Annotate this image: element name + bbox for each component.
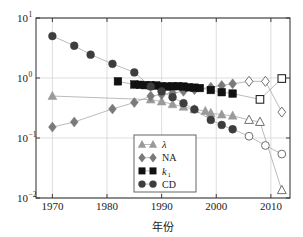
data-point-CD (48, 32, 56, 40)
chart-figure: 1970198019902000201010110010−110−2 λNAk1… (0, 0, 303, 237)
data-point-k₁ (114, 78, 122, 86)
y-tick-exponent: 1 (29, 10, 33, 19)
x-tick-label: 2000 (205, 200, 228, 212)
data-point-k₁ (196, 84, 204, 92)
x-tick-label: 1980 (96, 200, 119, 212)
data-point-CD (180, 99, 188, 107)
y-tick-exponent: 0 (29, 70, 33, 79)
legend-label: λ (161, 139, 167, 150)
data-point-CD (70, 42, 78, 50)
data-point-CD (87, 51, 95, 59)
chart-legend: λNAk1CD (134, 135, 196, 192)
data-point-CD (262, 142, 270, 150)
data-point-CD (191, 105, 199, 113)
data-point-CD (229, 125, 237, 133)
data-point-CD (158, 87, 166, 95)
x-tick-label: 1990 (151, 200, 174, 212)
data-point-k₁ (218, 88, 226, 96)
legend-marker-CD (138, 180, 145, 187)
data-point-CD (169, 93, 177, 101)
y-tick-exponent: −2 (29, 190, 37, 199)
legend-marker-CD (149, 180, 156, 187)
data-point-k₁ (229, 90, 237, 98)
data-point-k₁ (278, 75, 286, 83)
legend-marker-k (139, 167, 146, 174)
y-tick-exponent: −1 (29, 130, 37, 139)
x-tick-label: 1970 (41, 200, 64, 212)
data-point-CD (109, 60, 117, 68)
data-point-k₁ (207, 86, 215, 94)
data-point-k₁ (256, 96, 264, 104)
data-point-CD (130, 68, 138, 76)
y-tick-label: 10 (17, 192, 29, 204)
chart-plot-area: 1970198019902000201010110010−110−2 λNAk1… (0, 0, 303, 237)
y-tick-label: 10 (17, 72, 29, 84)
legend-marker-k (150, 167, 157, 174)
legend-label: k (162, 166, 167, 177)
legend-label: NA (162, 152, 177, 163)
data-point-CD (147, 83, 155, 91)
x-axis-title: 年份 (152, 220, 174, 233)
data-point-CD (245, 132, 253, 140)
data-point-CD (207, 116, 215, 124)
x-tick-label: 2010 (260, 200, 283, 212)
data-point-CD (218, 121, 226, 129)
y-tick-label: 10 (17, 12, 29, 24)
data-point-CD (278, 150, 286, 158)
y-tick-label: 10 (17, 132, 29, 144)
legend-label: CD (162, 179, 176, 190)
